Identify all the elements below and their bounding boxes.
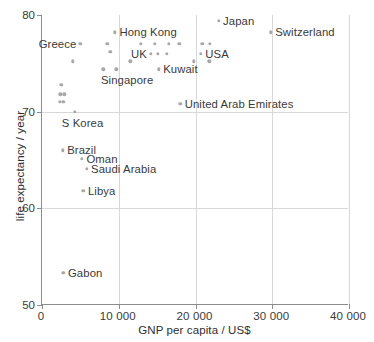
gridline-vertical (349, 15, 350, 304)
x-axis-tick-label: 10 000 (100, 310, 136, 322)
data-point (106, 42, 109, 45)
x-axis-tick (42, 304, 43, 309)
data-point (109, 50, 112, 53)
data-point (73, 110, 76, 113)
data-point-label: Switzerland (275, 26, 335, 38)
y-axis-tick-label: 60 (10, 202, 35, 214)
data-point-label: Gabon (68, 267, 102, 279)
data-point (199, 52, 202, 55)
data-point-label: Kuwait (163, 63, 198, 75)
data-point (129, 60, 132, 63)
plot-area: GreeceHong KongJapanSwitzerlandUKUSASing… (41, 15, 348, 305)
x-axis-tick-label: 30 000 (253, 310, 289, 322)
x-axis-tick (119, 304, 120, 309)
y-axis-tick-label: 50 (10, 299, 35, 311)
data-point (71, 60, 74, 63)
y-axis-tick-label: 80 (10, 9, 35, 21)
x-axis-tick-label: 20 000 (177, 310, 213, 322)
data-point (217, 19, 220, 22)
data-point (59, 83, 62, 86)
x-axis-tick-label: 0 (38, 310, 45, 322)
data-point (153, 42, 156, 45)
data-point (149, 52, 152, 55)
data-point (80, 157, 83, 160)
x-axis-tick-label: 40 000 (330, 310, 366, 322)
data-point (62, 100, 65, 103)
gridline-horizontal (42, 208, 348, 209)
data-point (157, 67, 160, 70)
data-point (165, 52, 168, 55)
data-point-label: USA (205, 48, 229, 60)
data-point (115, 67, 118, 70)
data-point-label: Hong Kong (119, 26, 176, 38)
y-axis-tick (37, 112, 42, 113)
data-point (79, 42, 82, 45)
data-point (208, 60, 211, 63)
x-axis-tick (196, 304, 197, 309)
data-point-label: Libya (88, 185, 116, 197)
data-point (167, 42, 170, 45)
data-point (102, 67, 105, 70)
y-axis-title: life expectancy / year (14, 76, 26, 256)
data-point-label: United Arab Emirates (185, 98, 294, 110)
data-point (61, 149, 64, 152)
data-point-label: UK (131, 48, 147, 60)
data-point (82, 189, 85, 192)
y-axis-tick (37, 208, 42, 209)
y-axis-tick (37, 305, 42, 306)
data-point (113, 31, 116, 34)
x-axis-tick (272, 304, 273, 309)
scatter-chart: GreeceHong KongJapanSwitzerlandUKUSASing… (0, 0, 374, 342)
gridline-vertical (119, 15, 120, 304)
data-point (85, 167, 88, 170)
data-point (178, 42, 181, 45)
gridline-horizontal (42, 112, 348, 113)
gridline-vertical (196, 15, 197, 304)
data-point-label: Singapore (101, 74, 153, 86)
data-point-label: S Korea (62, 117, 104, 129)
y-axis-tick-label: 70 (10, 106, 35, 118)
x-axis-tick (349, 304, 350, 309)
data-point (201, 42, 204, 45)
data-point (156, 52, 159, 55)
data-point (139, 42, 142, 45)
data-point (63, 93, 66, 96)
data-point (208, 42, 211, 45)
data-point-label: Greece (39, 38, 77, 50)
x-axis-title: GNP per capita / US$ (41, 324, 348, 336)
y-axis-tick (37, 15, 42, 16)
data-point (178, 102, 181, 105)
data-point-label: Saudi Arabia (91, 163, 156, 175)
data-point-label: Japan (223, 15, 254, 27)
data-point (62, 271, 65, 274)
gridline-vertical (272, 15, 273, 304)
